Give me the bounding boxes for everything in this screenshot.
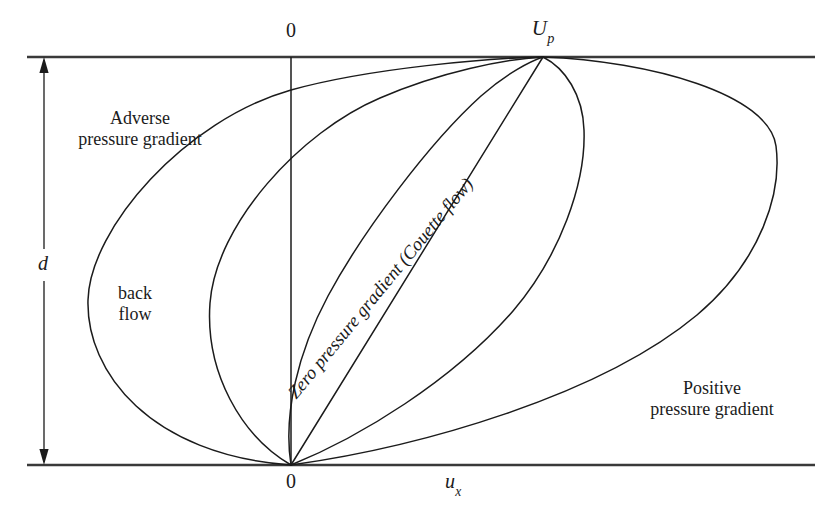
bottom-origin-label: 0 — [286, 470, 296, 494]
top-origin-label: 0 — [286, 19, 296, 43]
back-flow-label: back flow — [118, 283, 152, 325]
adverse-pressure-gradient-label: Adverse pressure gradient — [78, 108, 201, 150]
profile-curve-positive — [291, 57, 584, 465]
velocity-axis-label: ux — [445, 470, 475, 497]
gap-dimension-label: d — [38, 252, 48, 276]
upper-wall-velocity-subscript: p — [547, 30, 554, 46]
upper-wall-velocity-label: Up — [532, 16, 554, 44]
upper-wall-velocity-symbol: U — [532, 16, 547, 40]
velocity-profile-figure: 0 Up 0 ux d Adverse pressure gradient ba… — [0, 0, 835, 518]
positive-pressure-gradient-label: Positive pressure gradient — [650, 378, 773, 420]
profile-curve-adverse — [210, 57, 543, 465]
